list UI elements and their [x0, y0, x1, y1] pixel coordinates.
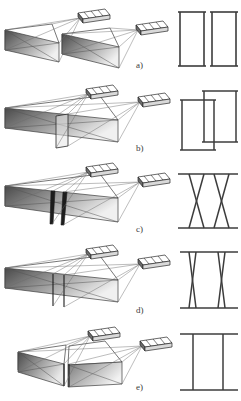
sensor-icon-right [138, 173, 170, 187]
sensor-icon-right [140, 337, 172, 351]
figure-container: a) [0, 0, 241, 401]
sensor-icon-right [138, 93, 170, 107]
panel-c-graphic [0, 160, 241, 238]
panel-e: e) [0, 320, 241, 401]
facade-block-right [68, 341, 122, 387]
schematic-b [180, 91, 238, 150]
sensor-icon-left [86, 85, 118, 99]
panel-c: c) [0, 160, 241, 238]
panel-d-graphic [0, 240, 241, 318]
panel-e-graphic [0, 320, 241, 401]
sensor-icon-left [86, 245, 118, 259]
facade-block-merged [5, 256, 118, 302]
panel-label-c: c) [136, 224, 143, 234]
sensor-icon-left [88, 327, 120, 341]
schematic-a [178, 12, 238, 66]
sensor-icon-left [78, 9, 110, 23]
panel-b: b) [0, 80, 241, 158]
panel-a: a) [0, 0, 241, 78]
schematic-d [180, 252, 238, 308]
sensor-icon-right [138, 255, 170, 269]
panel-label-a: a) [136, 60, 143, 70]
sensor-icon-left [86, 163, 118, 177]
panel-label-d: d) [136, 305, 144, 315]
sensor-icon-right [136, 21, 168, 35]
facade-block-left [18, 345, 66, 386]
schematic-e [180, 334, 238, 390]
schematic-c [178, 174, 238, 228]
panel-d: d) [0, 240, 241, 318]
panel-label-b: b) [136, 143, 144, 153]
panel-b-graphic [0, 80, 241, 158]
panel-a-graphic [0, 0, 241, 78]
facade-block-left [5, 24, 59, 62]
facade-block-right [62, 28, 119, 68]
panel-label-e: e) [136, 382, 143, 392]
